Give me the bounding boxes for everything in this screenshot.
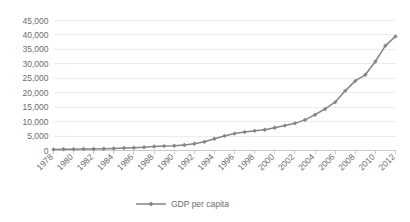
data-point-marker — [283, 123, 287, 127]
legend-marker-diamond — [149, 202, 154, 207]
x-tick-label: 2006 — [316, 152, 337, 173]
y-tick-label: 5,000 — [27, 131, 49, 141]
data-point-marker — [202, 140, 206, 144]
x-tick-label: 1990 — [155, 152, 176, 173]
data-point-marker — [132, 146, 136, 150]
data-point-marker — [212, 137, 216, 141]
data-point-marker — [222, 134, 226, 138]
x-axis-tick-labels: 1978198019821984198619881990199219941996… — [34, 152, 397, 173]
x-tick-label: 2002 — [276, 152, 297, 173]
data-point-marker — [192, 142, 196, 146]
x-tick-label: 1992 — [175, 152, 196, 173]
y-tick-label: 30,000 — [23, 59, 49, 69]
x-tick-label: 1988 — [135, 152, 156, 173]
data-point-marker — [112, 146, 116, 150]
data-point-marker — [122, 146, 126, 150]
x-tick-label: 1982 — [75, 152, 96, 173]
y-tick-label: 15,000 — [23, 102, 49, 112]
data-point-marker — [242, 130, 246, 134]
data-point-marker — [252, 129, 256, 133]
data-point-marker — [152, 144, 156, 148]
x-tick-label: 2012 — [376, 152, 397, 173]
data-point-marker — [162, 144, 166, 148]
x-tick-label: 1996 — [216, 152, 237, 173]
y-axis-tick-labels: 05,00010,00015,00020,00025,00030,00035,0… — [23, 16, 49, 156]
gridlines — [54, 21, 396, 137]
y-tick-label: 10,000 — [23, 117, 49, 127]
x-tick-label: 1984 — [95, 152, 116, 173]
x-tick-label: 2010 — [356, 152, 377, 173]
legend-label: GDP per capita — [171, 199, 229, 209]
x-tick-label: 1980 — [55, 152, 76, 173]
x-tick-label: 2008 — [336, 152, 357, 173]
y-tick-label: 20,000 — [23, 88, 49, 98]
y-tick-label: 40,000 — [23, 30, 49, 40]
data-point-marker — [273, 126, 277, 130]
chart-legend: GDP per capita — [136, 199, 229, 209]
data-point-marker — [172, 144, 176, 148]
axes — [54, 151, 396, 154]
x-tick-label: 1998 — [236, 152, 257, 173]
data-point-marker — [182, 143, 186, 147]
x-tick-label: 2004 — [296, 152, 317, 173]
x-tick-label: 1994 — [195, 152, 216, 173]
y-tick-label: 35,000 — [23, 44, 49, 54]
data-point-marker — [232, 131, 236, 135]
data-point-marker — [142, 145, 146, 149]
data-point-marker — [263, 128, 267, 132]
y-tick-label: 45,000 — [23, 16, 49, 26]
x-tick-label: 1978 — [34, 152, 55, 173]
x-tick-label: 2000 — [256, 152, 277, 173]
x-tick-label: 1986 — [115, 152, 136, 173]
y-tick-label: 25,000 — [23, 73, 49, 83]
gdp-per-capita-line-chart: 05,00010,00015,00020,00025,00030,00035,0… — [0, 0, 410, 222]
chart-container: 05,00010,00015,00020,00025,00030,00035,0… — [0, 0, 410, 222]
